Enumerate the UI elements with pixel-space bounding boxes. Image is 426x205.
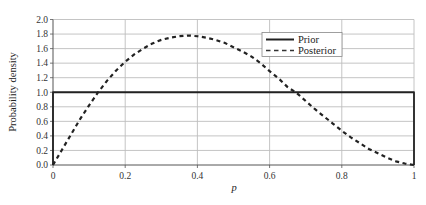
y-tick-label: 0.4 xyxy=(36,131,48,141)
y-tick-label: 1.0 xyxy=(36,88,48,98)
y-tick-label: 0.8 xyxy=(36,102,48,112)
series-posterior-line xyxy=(53,36,414,166)
x-tick-label: 0 xyxy=(51,171,56,181)
x-tick-label: 1 xyxy=(412,171,417,181)
y-tick-label: 2.0 xyxy=(36,15,48,25)
x-axis-ticks: 00.20.40.60.81 xyxy=(51,165,417,181)
x-tick-label: 0.8 xyxy=(336,171,348,181)
y-tick-label: 1.8 xyxy=(36,29,48,39)
y-tick-label: 0.6 xyxy=(36,117,48,127)
y-tick-label: 0.0 xyxy=(36,160,48,170)
chart: 0.00.20.40.60.81.01.21.41.61.82.0 00.20.… xyxy=(0,0,426,205)
y-tick-label: 0.2 xyxy=(36,146,48,156)
y-tick-label: 1.6 xyxy=(36,44,48,54)
x-tick-label: 0.6 xyxy=(264,171,276,181)
x-tick-label: 0.2 xyxy=(119,171,131,181)
x-axis-title: p xyxy=(230,182,236,193)
series-prior-line xyxy=(53,92,414,165)
series-layer xyxy=(53,36,414,166)
x-tick-label: 0.4 xyxy=(191,171,203,181)
legend-prior-label: Prior xyxy=(298,34,320,45)
legend-posterior-label: Posterior xyxy=(298,45,336,56)
y-axis-ticks: 0.00.20.40.60.81.01.21.41.61.82.0 xyxy=(36,15,53,171)
y-tick-label: 1.4 xyxy=(36,58,48,68)
y-tick-label: 1.2 xyxy=(36,73,48,83)
y-axis-title: Probability density xyxy=(7,51,18,131)
legend: Prior Posterior xyxy=(262,33,342,57)
